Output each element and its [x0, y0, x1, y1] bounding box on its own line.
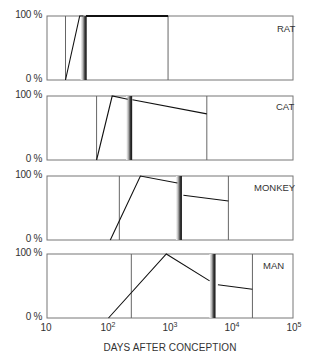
y-label-100-monkey: 100 % — [0, 169, 42, 180]
growth-curve-postnatal-cat — [132, 100, 206, 114]
x-tick-10e5: 105 — [286, 322, 301, 333]
y-label-0-rat: 0 % — [0, 73, 42, 84]
growth-curve-prenatal-cat — [97, 96, 128, 160]
x-tick-10e4: 104 — [224, 322, 239, 333]
birth-marker-monkey — [176, 176, 182, 240]
panel-label-monkey: MONKEY — [254, 182, 295, 193]
y-label-100-cat: 100 % — [0, 89, 42, 100]
panel-label-cat: CAT — [276, 101, 294, 112]
growth-curve-prenatal-man — [109, 254, 210, 318]
birth-marker-man — [210, 254, 216, 318]
y-label-0-monkey: 0 % — [0, 233, 42, 244]
developmental-curves-figure: RAT CAT MONKEY MAN 100 % 0 % 100 % 0 % 1… — [0, 0, 311, 362]
growth-curve-postnatal-monkey — [183, 195, 228, 201]
growth-curve-postnatal-man — [218, 285, 253, 290]
birth-marker-rat — [81, 16, 87, 80]
x-tick-10e3: 103 — [162, 322, 177, 333]
y-label-0-cat: 0 % — [0, 153, 42, 164]
y-label-100-man: 100 % — [0, 247, 42, 258]
birth-marker-cat — [126, 96, 132, 160]
panel-label-rat: RAT — [277, 23, 295, 34]
growth-curve-prenatal-monkey — [110, 176, 177, 240]
panel-frame-cat — [47, 96, 293, 160]
x-axis-title: DAYS AFTER CONCEPTION — [0, 342, 311, 353]
panel-frame-man — [47, 254, 293, 318]
x-tick-10: 10 — [40, 322, 51, 333]
y-label-0-man: 0 % — [0, 311, 42, 322]
y-label-100-rat: 100 % — [0, 9, 42, 20]
plot-area — [0, 0, 311, 362]
x-tick-10e2: 102 — [100, 322, 115, 333]
panel-label-man: MAN — [263, 260, 284, 271]
